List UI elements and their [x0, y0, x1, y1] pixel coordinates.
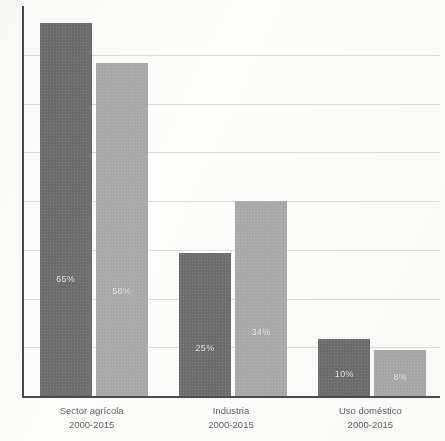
bar[interactable]: 10%: [318, 339, 370, 396]
bar-group: 10%8%: [303, 6, 442, 396]
bar-value-label: 25%: [179, 343, 231, 353]
category-period: 2000-2015: [22, 418, 161, 432]
bar[interactable]: 58%: [96, 63, 148, 396]
bar-value-label: 10%: [318, 369, 370, 379]
category-axis-labels: Sector agrícola2000-2015Industria2000-20…: [22, 404, 440, 440]
category-name: Sector agrícola: [22, 404, 161, 418]
bar[interactable]: 34%: [235, 201, 287, 396]
bar-value-label: 8%: [374, 372, 426, 382]
category-label: Uso doméstico2000-2015: [301, 404, 440, 432]
category-period: 2000-2015: [301, 418, 440, 432]
category-name: Industria: [161, 404, 300, 418]
category-period: 2000-2015: [161, 418, 300, 432]
plot-area: 65%58%25%34%10%8%: [22, 6, 440, 398]
bar-value-label: 65%: [40, 274, 92, 284]
bars-layer: 65%58%25%34%10%8%: [24, 6, 440, 396]
bar-value-label: 58%: [96, 286, 148, 296]
bar-value-label: 34%: [235, 327, 287, 337]
bar[interactable]: 8%: [374, 350, 426, 396]
bar[interactable]: 65%: [40, 23, 92, 396]
x-axis-line: [22, 396, 440, 398]
bar-chart-figure: 65%58%25%34%10%8% Sector agrícola2000-20…: [0, 0, 445, 441]
bar-group: 65%58%: [24, 6, 163, 396]
bar-group: 25%34%: [163, 6, 302, 396]
category-name: Uso doméstico: [301, 404, 440, 418]
category-label: Industria2000-2015: [161, 404, 300, 432]
category-label: Sector agrícola2000-2015: [22, 404, 161, 432]
bar[interactable]: 25%: [179, 253, 231, 396]
